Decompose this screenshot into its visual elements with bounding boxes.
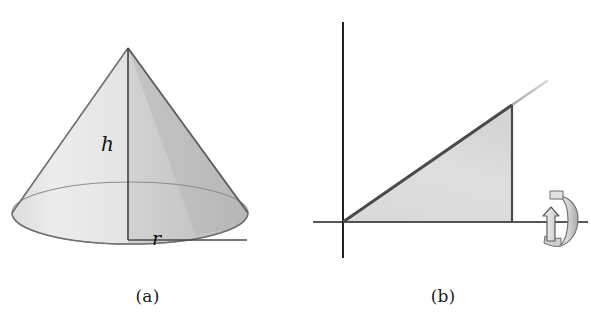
cone-radius-label: r	[152, 229, 161, 248]
caption-panel-a: (a)	[0, 286, 295, 306]
cone-drawing	[0, 0, 295, 319]
panel-cone-diagram: h r (a)	[0, 0, 295, 319]
panel-graph-diagram: y x 0 h r y = ( r h ) x (b)	[295, 0, 591, 319]
cone-height-label: h	[101, 134, 114, 154]
rotation-arrow-tab	[550, 191, 563, 199]
rotation-arrow-back-limb	[560, 196, 578, 246]
line-extension	[512, 81, 547, 105]
rotation-arrow-icon	[543, 191, 578, 246]
caption-panel-b: (b)	[295, 286, 591, 306]
graph-drawing	[295, 0, 591, 319]
figure-container: h r (a)	[0, 0, 591, 319]
